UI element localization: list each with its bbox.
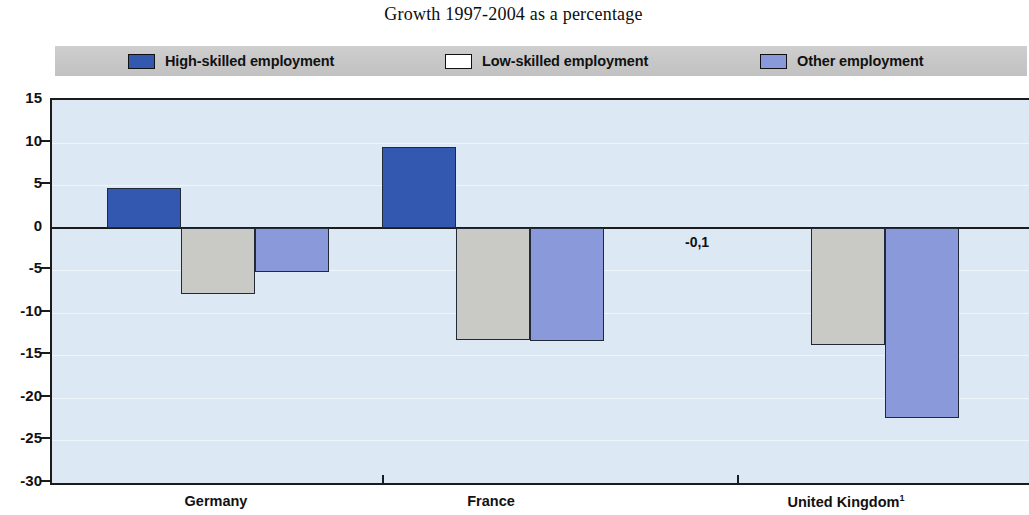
y-axis-label: 5 — [0, 174, 42, 191]
bar-value-label: -0,1 — [685, 234, 709, 250]
x-axis-label-text: France — [467, 493, 515, 509]
gridline — [52, 143, 1029, 144]
y-axis-label: 0 — [0, 217, 42, 234]
x-axis-group-divider — [382, 475, 384, 484]
y-axis-label: 15 — [0, 89, 42, 106]
y-axis-label: -25 — [0, 429, 42, 446]
y-axis-label: -30 — [0, 472, 42, 489]
x-axis-label-text: United Kingdom — [788, 494, 900, 510]
y-axis-label: 10 — [0, 132, 42, 149]
x-axis-group-divider — [737, 475, 739, 484]
x-axis-label-footnote: 1 — [899, 493, 904, 503]
gridline — [52, 440, 1029, 441]
bar-high-germany[interactable] — [107, 188, 181, 228]
y-axis-label: -10 — [0, 302, 42, 319]
bar-high-france[interactable] — [382, 147, 456, 228]
x-axis-label-france: France — [381, 493, 601, 509]
bar-low-france[interactable] — [456, 228, 530, 340]
y-axis-label: -5 — [0, 259, 42, 276]
x-axis-label-text: Germany — [185, 493, 248, 509]
gridline — [52, 398, 1029, 399]
bar-other-germany[interactable] — [255, 228, 329, 272]
bar-other-united-kingdom[interactable] — [885, 228, 959, 419]
gridline — [52, 185, 1029, 186]
bar-low-united-kingdom[interactable] — [811, 228, 885, 345]
gridline — [52, 355, 1029, 356]
bar-other-france[interactable] — [530, 228, 604, 341]
y-axis-label: -15 — [0, 344, 42, 361]
bar-low-germany[interactable] — [181, 228, 255, 294]
x-axis-label-germany: Germany — [106, 493, 326, 509]
x-axis-label-united-kingdom: United Kingdom1 — [736, 493, 956, 510]
plot-area: -0,1 — [50, 98, 1029, 485]
y-axis-label: -20 — [0, 387, 42, 404]
